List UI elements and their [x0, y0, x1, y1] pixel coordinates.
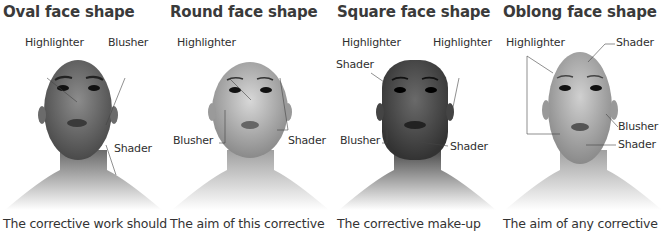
- round-face-illustration: [167, 30, 334, 215]
- panel-title: Square face shape: [337, 3, 490, 21]
- label-blusher: Blusher: [618, 120, 658, 133]
- label-shader-jaw: Shader: [450, 140, 488, 153]
- label-shader-forehead: Shader: [616, 36, 654, 49]
- label-shader-chin: Shader: [618, 138, 656, 151]
- panel-caption: The aim of any corrective: [503, 216, 658, 231]
- panel-square-face: Square face shape Highlighter Highlighte…: [334, 0, 501, 238]
- panel-round-face: Round face shape Highlighter Blusher Sha…: [167, 0, 334, 238]
- label-highlighter: Highlighter: [506, 36, 565, 49]
- panel-title: Oval face shape: [3, 3, 135, 21]
- label-blusher: Blusher: [108, 36, 148, 49]
- panel-oval-face: Oval face shape Highlighter Blusher Shad…: [0, 0, 167, 238]
- panel-caption: The aim of this corrective: [170, 216, 324, 231]
- label-highlighter-right: Highlighter: [433, 36, 492, 49]
- panel-title: Oblong face shape: [503, 3, 657, 21]
- label-highlighter-left: Highlighter: [342, 36, 401, 49]
- label-blusher: Blusher: [173, 134, 213, 147]
- panel-title: Round face shape: [170, 3, 318, 21]
- panel-oblong-face: Oblong face shape Highlighter Shader Blu…: [500, 0, 667, 238]
- label-highlighter: Highlighter: [177, 36, 236, 49]
- label-shader: Shader: [114, 142, 152, 155]
- panel-caption: The corrective make-up: [337, 216, 481, 231]
- label-highlighter: Highlighter: [25, 36, 84, 49]
- label-shader: Shader: [288, 134, 326, 147]
- label-shader-forehead: Shader: [336, 58, 374, 71]
- oval-face-illustration: [0, 30, 167, 215]
- panel-caption: The corrective work should: [3, 216, 167, 231]
- label-blusher: Blusher: [340, 134, 380, 147]
